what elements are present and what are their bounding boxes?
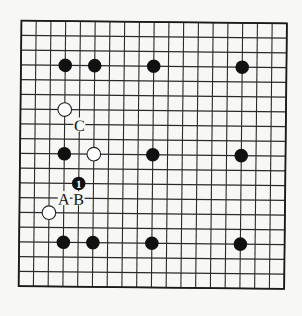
- label-text: B: [73, 191, 84, 208]
- black-stone: [147, 59, 161, 73]
- point-label-c: C: [73, 117, 85, 134]
- black-stone: [86, 236, 100, 250]
- black-stone: 1: [72, 177, 86, 191]
- black-stone: [146, 148, 160, 162]
- labels-layer: CAB: [58, 117, 86, 208]
- black-stone: [145, 236, 159, 250]
- white-stone: [58, 103, 72, 117]
- black-stone-icon: [56, 235, 70, 249]
- white-stone: [87, 147, 101, 161]
- white-stone-icon: [87, 147, 101, 161]
- go-board-diagram: 1 CAB: [0, 0, 302, 316]
- move-number: 1: [76, 178, 82, 190]
- black-stone-icon: [86, 236, 100, 250]
- black-stone-icon: [233, 237, 247, 251]
- label-text: A: [58, 191, 70, 208]
- label-text: C: [74, 117, 85, 134]
- black-stone-icon: [146, 148, 160, 162]
- point-label-b: B: [72, 191, 84, 208]
- black-stone-icon: [57, 147, 71, 161]
- white-stone: [42, 206, 56, 220]
- black-stone: [234, 149, 248, 163]
- black-stone: [88, 59, 102, 73]
- black-stone: [57, 147, 71, 161]
- black-stone-icon: [88, 59, 102, 73]
- black-stone-icon: [234, 149, 248, 163]
- black-stone-icon: [145, 236, 159, 250]
- board-group: 1 CAB: [19, 21, 287, 289]
- black-stone: [58, 58, 72, 72]
- black-stone-icon: [147, 59, 161, 73]
- white-stone-icon: [58, 103, 72, 117]
- black-stone-icon: [235, 60, 249, 74]
- black-stone: [233, 237, 247, 251]
- black-stone-icon: [58, 58, 72, 72]
- black-stone: [235, 60, 249, 74]
- white-stone-icon: [42, 206, 56, 220]
- black-stone: [56, 235, 70, 249]
- go-board: 1 CAB: [0, 0, 302, 316]
- point-label-a: A: [58, 191, 70, 208]
